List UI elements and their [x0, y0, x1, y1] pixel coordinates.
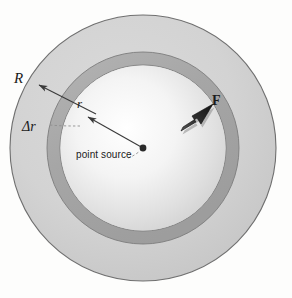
physics-diagram-point-source-shell: R r Δr F point source: [0, 0, 292, 298]
label-outer-radius-R: R: [14, 71, 23, 86]
point-source-dot: [140, 145, 147, 152]
label-shell-thickness-delta-r: Δr: [22, 120, 36, 134]
label-inner-radius-r: r: [77, 97, 82, 110]
diagram-canvas: [0, 0, 292, 298]
label-force-F: F: [212, 94, 221, 108]
label-point-source: point source: [76, 150, 132, 160]
